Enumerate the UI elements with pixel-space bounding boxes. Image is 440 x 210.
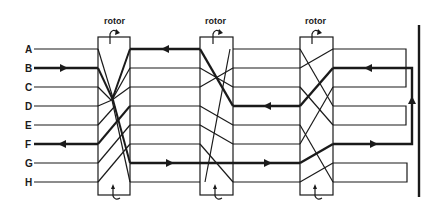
rotor-1 [98, 37, 130, 200]
arrow-left-icon [58, 140, 66, 148]
key-label-a: A [25, 44, 32, 55]
rotor-wiring-diagram: A B C D E F G H [0, 0, 440, 210]
reflector-loops [333, 49, 412, 182]
arrow-right-icon [264, 159, 272, 167]
key-label-h: H [25, 177, 32, 188]
rotor-3-label: rotor [305, 16, 326, 26]
arrow-right-icon [166, 159, 174, 167]
key-label-d: D [25, 101, 32, 112]
arrow-right-icon [370, 140, 378, 148]
key-label-b: B [25, 63, 32, 74]
key-label-e: E [25, 120, 32, 131]
arrow-right-icon [60, 64, 68, 72]
key-label-f: F [25, 139, 31, 150]
rotor-2 [200, 37, 233, 195]
rotation-arrow-icon [215, 188, 222, 199]
rotor-2-label: rotor [205, 16, 226, 26]
key-label-g: G [25, 158, 33, 169]
rotor-1-label: rotor [104, 16, 125, 26]
arrow-left-icon [161, 45, 169, 53]
rotation-arrow-icon [315, 188, 322, 199]
arrow-left-icon [263, 102, 271, 110]
key-label-c: C [25, 82, 32, 93]
arrow-up-icon [408, 96, 416, 104]
arrow-left-icon [364, 64, 372, 72]
rotor-1-2-lines [130, 49, 200, 182]
key-labels: A B C D E F G H [25, 44, 33, 188]
rotor-3 [300, 37, 333, 195]
rotation-arrow-icon [113, 188, 120, 199]
